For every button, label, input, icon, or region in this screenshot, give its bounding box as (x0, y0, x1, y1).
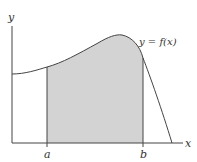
y-axis-label: y (7, 11, 15, 24)
area-under-curve-diagram: y x y = f(x) a b (0, 0, 197, 162)
shaded-area (47, 35, 143, 143)
x-axis-label: x (185, 137, 192, 150)
b-label: b (140, 148, 147, 161)
a-label: a (44, 148, 51, 161)
curve-label: y = f(x) (138, 36, 177, 47)
